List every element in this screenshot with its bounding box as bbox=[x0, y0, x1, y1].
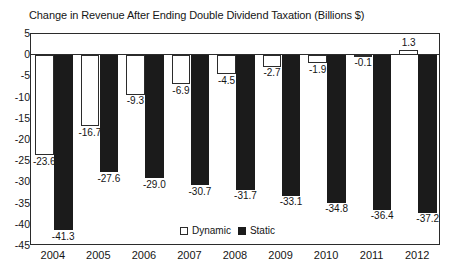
legend-entry-static: Static bbox=[238, 226, 275, 236]
bar-dynamic bbox=[263, 55, 282, 66]
bar-label-static: -37.2 bbox=[409, 213, 446, 224]
bar-static bbox=[54, 55, 73, 230]
bar-static bbox=[373, 55, 392, 209]
bar-group: -4.5-31.7 bbox=[213, 34, 259, 244]
bar-dynamic bbox=[399, 50, 418, 56]
bar-dynamic bbox=[172, 55, 191, 84]
x-axis: 200420052006200720082009201020112012 bbox=[30, 249, 440, 269]
x-tick-label: 2010 bbox=[303, 249, 349, 261]
bar-static bbox=[282, 55, 301, 195]
bar-static bbox=[418, 55, 437, 213]
bar-group: -23.6-41.3 bbox=[31, 34, 77, 244]
bar-static bbox=[100, 55, 119, 172]
bar-group: 1.3-37.2 bbox=[395, 34, 441, 244]
x-tick-label: 2005 bbox=[76, 249, 122, 261]
x-tick-label: 2009 bbox=[258, 249, 304, 261]
x-tick-label: 2004 bbox=[30, 249, 76, 261]
bar-group: -1.9-34.8 bbox=[304, 34, 350, 244]
bar-dynamic bbox=[35, 55, 54, 155]
x-tick-label: 2008 bbox=[212, 249, 258, 261]
revenue-change-bar-chart: Change in Revenue After Ending Double Di… bbox=[0, 0, 457, 273]
bar-static bbox=[191, 55, 210, 185]
bar-group: -0.1-36.4 bbox=[350, 34, 396, 244]
x-tick-label: 2006 bbox=[121, 249, 167, 261]
plot-area: -23.6-41.3-16.7-27.6-9.3-29.0-6.9-30.7-4… bbox=[30, 33, 440, 245]
bar-dynamic bbox=[81, 55, 100, 126]
chart-title: Change in Revenue After Ending Double Di… bbox=[29, 9, 364, 21]
bar-label-dynamic: 1.3 bbox=[390, 37, 427, 48]
x-tick-label: 2011 bbox=[349, 249, 395, 261]
bar-group: -16.7-27.6 bbox=[77, 34, 123, 244]
chart-legend: Dynamic Static bbox=[178, 224, 277, 237]
x-tick-label: 2007 bbox=[167, 249, 213, 261]
x-tick-label: 2012 bbox=[394, 249, 440, 261]
legend-swatch-static-icon bbox=[238, 227, 246, 235]
bar-dynamic bbox=[217, 55, 236, 74]
bar-group: -9.3-29.0 bbox=[122, 34, 168, 244]
bar-static bbox=[145, 55, 164, 178]
bar-dynamic bbox=[126, 55, 145, 94]
legend-label-dynamic: Dynamic bbox=[192, 226, 231, 236]
bar-group: -6.9-30.7 bbox=[168, 34, 214, 244]
bar-dynamic bbox=[308, 55, 327, 63]
bar-group: -2.7-33.1 bbox=[259, 34, 305, 244]
legend-entry-dynamic: Dynamic bbox=[180, 226, 231, 236]
legend-label-static: Static bbox=[250, 226, 275, 236]
bar-static bbox=[236, 55, 255, 189]
bar-static bbox=[327, 55, 346, 203]
legend-swatch-dynamic-icon bbox=[180, 227, 188, 235]
